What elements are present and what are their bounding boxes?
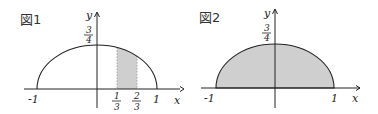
figure-1-tick-2-3-num: 2 <box>133 91 140 101</box>
figure-1: 図1 y x 3 4 -1 1 1 3 2 3 <box>20 9 184 112</box>
figure-2-ymax-num: 3 <box>264 23 270 33</box>
figure-1-title: 図1 <box>20 12 41 27</box>
figure-1-tick-1: 1 <box>153 93 160 106</box>
figure-1-tick-1-3-num: 1 <box>114 91 120 101</box>
figure-1-x-label: x <box>174 94 181 107</box>
figure-2-tick-1: 1 <box>331 92 338 105</box>
figure-1-tick-1-3-den: 3 <box>114 102 120 112</box>
figure-1-y-label: y <box>85 9 93 22</box>
figure-2-title: 図2 <box>199 10 220 25</box>
figure-1-ymax-den: 4 <box>85 35 92 45</box>
figure-2-ymax-den: 4 <box>263 33 270 43</box>
figure-1-tick-neg1: -1 <box>28 93 39 106</box>
figure-2-y-label: y <box>263 7 271 20</box>
figure-1-x-arrow-icon <box>180 87 184 92</box>
figure-2-tick-neg1: -1 <box>204 92 215 105</box>
figure-2-x-label: x <box>352 92 359 105</box>
figure-2: 図2 y x 3 4 -1 1 <box>199 7 360 108</box>
figure-1-tick-2-3-den: 3 <box>134 102 140 112</box>
figure-1-ymax-num: 3 <box>86 25 92 35</box>
